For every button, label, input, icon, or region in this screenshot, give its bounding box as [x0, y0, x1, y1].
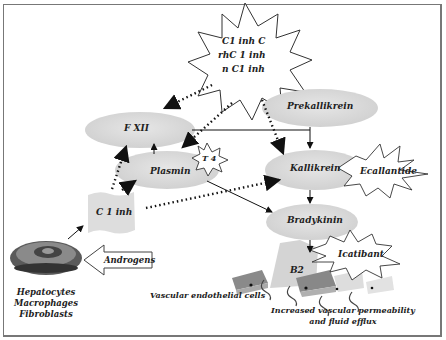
ecallantide-label: Ecallantide [360, 166, 417, 176]
t4-label: T 4 [202, 153, 216, 163]
b2-label: B2 [290, 265, 304, 275]
inhibitor-label-1: C1 inh C [222, 36, 265, 46]
fxii-label: F XII [124, 123, 149, 133]
bradykinin-label: Bradykinin [287, 215, 343, 225]
outcome-line-2: and fluid efflux [268, 316, 418, 327]
plasmin-label: Plasmin [150, 166, 191, 176]
endothelial-caption: Vascular endothelial cells [150, 290, 265, 301]
inhibitor-label-2: rhC 1 inh [218, 50, 265, 60]
inhibitor-label-3: n C1 inh [222, 64, 265, 74]
prekallikrein-label: Prekallikrein [287, 101, 353, 111]
icatibant-label: Icatibant [338, 249, 384, 259]
cell-type-hepatocytes: Hepatocytes [10, 287, 82, 298]
cell-types-caption: Hepatocytes Macrophages Fibroblasts [10, 287, 82, 320]
androgens-label: Androgens [104, 255, 155, 265]
hepatocyte-image [10, 241, 82, 275]
outcome-line-1: Increased vascular permeability [268, 305, 418, 316]
outcome-caption: Increased vascular permeability and flui… [268, 305, 418, 327]
cell-type-macrophages: Macrophages [10, 298, 82, 309]
c1inh-label: C 1 inh [96, 207, 132, 217]
kallikrein-label: Kallikrein [290, 163, 341, 173]
cell-type-fibroblasts: Fibroblasts [10, 309, 82, 320]
